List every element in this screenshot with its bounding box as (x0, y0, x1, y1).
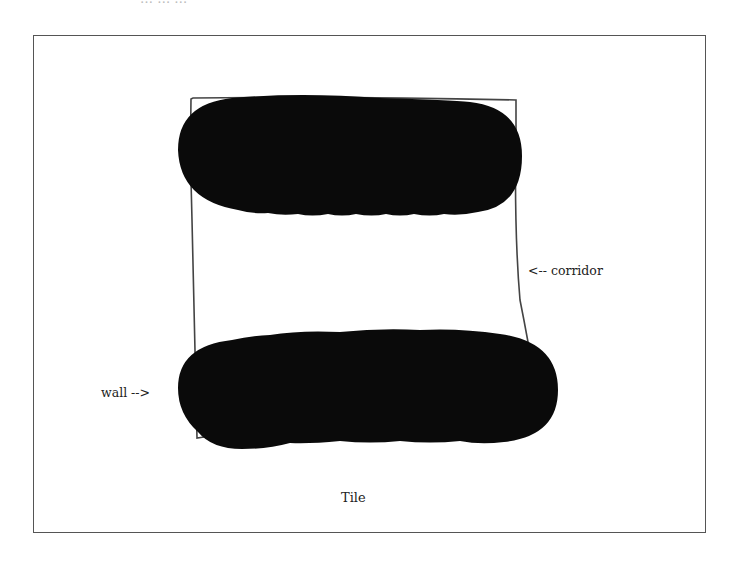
tile-diagram (0, 0, 740, 561)
bottom-wall-blob (178, 329, 558, 449)
wall-annotation: wall --> (101, 385, 150, 400)
corridor-annotation: <-- corridor (528, 263, 603, 278)
top-wall-blob (178, 95, 522, 216)
figure-caption: Tile (341, 490, 366, 505)
